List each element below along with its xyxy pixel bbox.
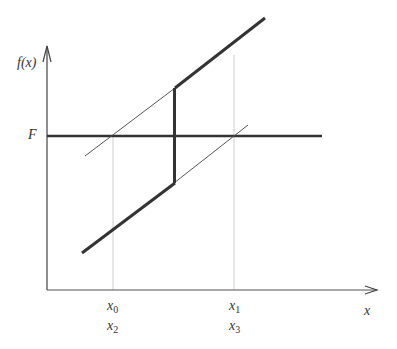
level-F-label: F xyxy=(28,128,37,142)
tick-x3: x3 xyxy=(229,319,240,335)
upper-thin-branch xyxy=(85,88,175,156)
lower-thin-branch xyxy=(174,125,248,183)
tick-x2: x2 xyxy=(107,319,118,335)
y-axis-label: f(x) xyxy=(17,56,36,70)
tick-x1: x1 xyxy=(229,299,240,315)
upper-thick-branch xyxy=(175,18,265,88)
lower-thick-branch xyxy=(82,183,175,253)
hysteresis-diagram xyxy=(0,0,397,349)
tick-x0: x0 xyxy=(107,299,118,315)
x-axis-label: x xyxy=(364,304,370,318)
